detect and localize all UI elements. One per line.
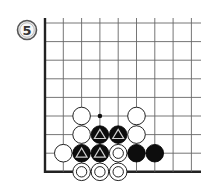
diagram-number-badge: 5 [18,21,37,40]
white-stone [73,126,91,144]
board-markers [98,114,103,119]
black-stone [128,144,146,162]
go-board-diagram: 5 [0,0,212,192]
white-stone [55,144,73,162]
point-dot-marker [98,114,103,119]
white-stone [128,126,146,144]
black-stone [91,126,109,144]
diagram-number: 5 [22,23,31,38]
white-stone [91,163,109,181]
black-stone [91,144,109,162]
white-stone [73,107,91,125]
board-stones [55,107,164,180]
white-stone [109,163,127,181]
black-stone [109,126,127,144]
black-stone [73,144,91,162]
white-stone [128,107,146,125]
black-stone [146,144,164,162]
white-stone [109,144,127,162]
white-stone [73,163,91,181]
